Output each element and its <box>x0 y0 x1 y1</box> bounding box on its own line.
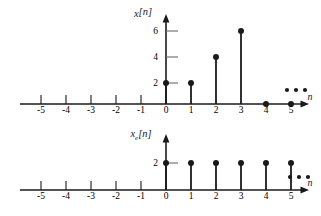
y-tick-label-top-4: 4 <box>144 52 158 62</box>
y-tick-label-col-top: 2 4 6 <box>0 0 321 110</box>
stem-plot-figure: x[n] n -5 -4 -3 -2 -1 0 1 2 3 4 5 2 4 6 <box>0 0 321 216</box>
y-tick-label-col-bottom: 2 <box>0 110 321 216</box>
y-tick-label-top-6: 6 <box>144 26 158 36</box>
y-tick-label-bottom-2: 2 <box>144 158 158 168</box>
y-tick-label-top-2: 2 <box>144 78 158 88</box>
